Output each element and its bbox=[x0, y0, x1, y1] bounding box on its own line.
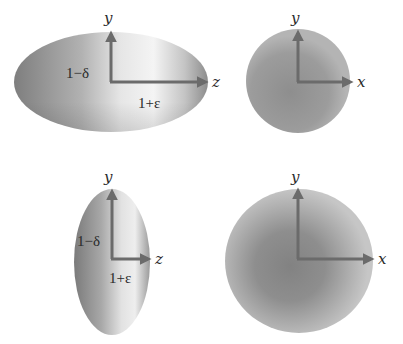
major-axis-label: 1+ε bbox=[138, 95, 160, 111]
minor-axis-label: 1−δ bbox=[66, 65, 89, 81]
major-axis-label: 1+ε bbox=[109, 270, 131, 286]
deformed-nucleus-figure: y z 1−δ 1+ε y x y z 1−δ 1+ε y x bbox=[0, 0, 403, 344]
y-axis-label: y bbox=[290, 9, 300, 27]
y-axis-label: y bbox=[103, 168, 113, 186]
x-axis-label: x bbox=[357, 73, 366, 91]
panel-oblate-side: y z 1−δ 1+ε bbox=[74, 168, 163, 335]
y-axis-label: y bbox=[103, 9, 113, 27]
panel-prolate-end: y x bbox=[246, 9, 366, 133]
minor-axis-label: 1−δ bbox=[77, 233, 100, 249]
z-axis-label: z bbox=[211, 73, 220, 91]
z-axis-label: z bbox=[154, 250, 163, 268]
x-axis-label: x bbox=[378, 250, 387, 268]
panel-oblate-end: y x bbox=[225, 168, 387, 333]
panel-prolate-side: y z 1−δ 1+ε bbox=[14, 9, 220, 132]
y-axis-label: y bbox=[290, 168, 300, 186]
